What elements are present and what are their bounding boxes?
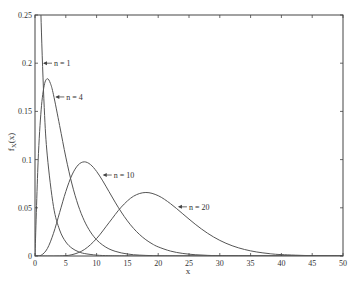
y-label-arg: (x)	[6, 133, 16, 144]
x-tick-label: 40	[277, 259, 285, 268]
y-tick-label: 0.15	[18, 107, 32, 116]
x-tick-label: 20	[154, 259, 162, 268]
x-tick-label: 10	[93, 259, 101, 268]
x-tick-label: 50	[339, 259, 347, 268]
series-labels: n = 1n = 4n = 10n = 20	[43, 59, 209, 212]
arrow-left-icon	[103, 173, 107, 177]
y-tick-label: 0	[28, 252, 32, 261]
x-tick-label: 0	[33, 259, 37, 268]
series-label: n = 1	[54, 59, 71, 68]
curve-n4	[35, 79, 343, 256]
axis-ticks: 0510152025303540455000.050.10.150.20.25	[18, 11, 347, 268]
x-tick-label: 30	[216, 259, 224, 268]
arrow-left-icon	[43, 61, 47, 65]
x-tick-label: 15	[123, 259, 131, 268]
y-tick-label: 0.1	[22, 156, 32, 165]
x-tick-label: 45	[308, 259, 316, 268]
arrow-left-icon	[178, 205, 182, 209]
series-label: n = 10	[114, 171, 135, 180]
series-label: n = 4	[66, 93, 83, 102]
chi-square-pdf-chart: 0510152025303540455000.050.10.150.20.25 …	[0, 0, 359, 284]
arrow-left-icon	[55, 95, 59, 99]
x-axis-label: x	[186, 266, 191, 276]
plot-border	[35, 15, 343, 256]
plot-area	[35, 15, 343, 256]
curve-n1	[36, 0, 343, 256]
y-tick-label: 0.2	[22, 59, 32, 68]
y-tick-label: 0.05	[18, 204, 32, 213]
svg-text:fX(x): fX(x)	[6, 133, 18, 152]
y-tick-label: 0.25	[18, 11, 32, 20]
x-tick-label: 35	[247, 259, 255, 268]
y-axis-label: fX(x)	[6, 133, 18, 152]
x-tick-label: 5	[64, 259, 68, 268]
series-label: n = 20	[189, 203, 210, 212]
curves	[35, 0, 343, 256]
